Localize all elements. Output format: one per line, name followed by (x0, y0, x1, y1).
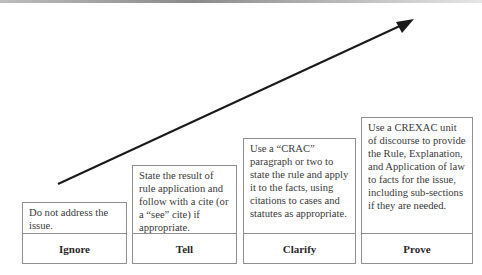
step-label: Clarify (244, 233, 355, 263)
step-label: Tell (133, 233, 236, 263)
step-label: Prove (362, 233, 472, 263)
step-tell: State the result of rule application and… (132, 165, 237, 264)
step-clarify: Use a “CRAC” paragraph or two to state t… (243, 138, 356, 264)
step-description: Use a “CRAC” paragraph or two to state t… (244, 139, 355, 220)
step-ignore: Do not address the issue. Ignore (22, 202, 127, 264)
step-description: State the result of rule application and… (133, 166, 236, 234)
step-prove: Use a CREXAC unit of discourse to provid… (361, 117, 473, 264)
step-description: Use a CREXAC unit of discourse to provid… (362, 118, 472, 212)
step-description: Do not address the issue. (23, 203, 126, 232)
step-label: Ignore (23, 233, 126, 263)
